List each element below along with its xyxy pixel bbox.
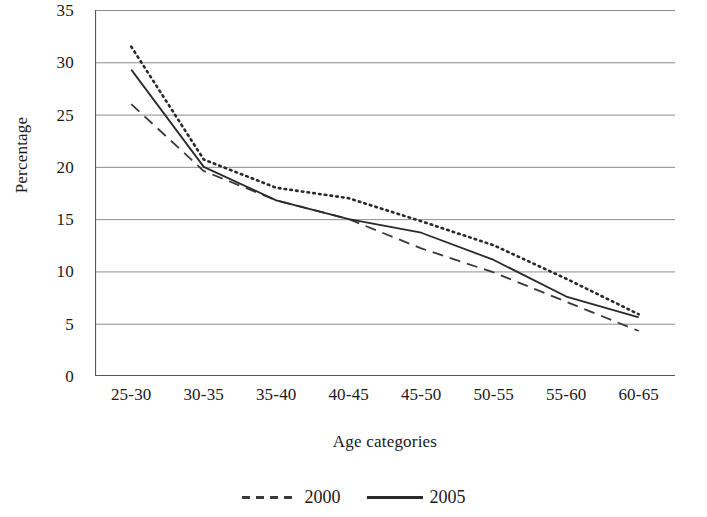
x-axis-tick-label: 60-65 — [594, 386, 684, 403]
y-axis-tick-label: 0 — [28, 368, 74, 385]
y-axis-tick-label: 5 — [28, 316, 74, 333]
y-axis-tick-label: 35 — [28, 2, 74, 19]
y-axis-tick-label: 15 — [28, 211, 74, 228]
legend-item: 2000 — [242, 488, 341, 506]
chart-legend: 20002005 — [0, 488, 707, 506]
legend-swatch-solid — [367, 496, 423, 499]
line-chart-figure: Percentage 05101520253035 25-3030-3535-4… — [0, 0, 707, 517]
y-axis-tick-label: 20 — [28, 159, 74, 176]
series-line — [131, 104, 639, 331]
y-axis-tick-label: 25 — [28, 107, 74, 124]
legend-item: 2005 — [367, 488, 466, 506]
x-axis-label: Age categories — [95, 432, 675, 452]
series-line — [131, 47, 639, 315]
legend-label: 2000 — [305, 488, 341, 506]
data-series-group — [131, 47, 639, 331]
gridlines — [95, 11, 675, 325]
legend-swatch-dashed — [242, 496, 298, 499]
legend-label: 2005 — [430, 488, 466, 506]
y-axis-tick-label: 10 — [28, 263, 74, 280]
y-axis-tick-label: 30 — [28, 54, 74, 71]
series-line — [131, 70, 639, 318]
plot-area — [95, 10, 675, 376]
